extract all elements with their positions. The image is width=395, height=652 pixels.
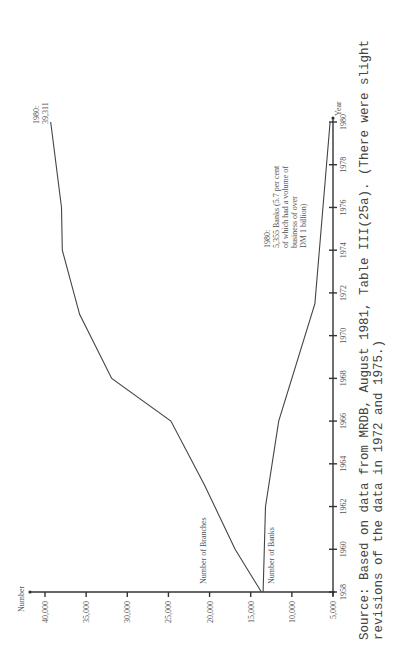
- banks-series-label: Number of Banks: [267, 527, 276, 584]
- source-note: Source: Based on data from MRDB, August …: [358, 40, 386, 640]
- svg-text:1976: 1976: [339, 199, 348, 215]
- branches-series-line: [51, 122, 262, 592]
- svg-text:35,000: 35,000: [82, 601, 91, 623]
- svg-text:1970: 1970: [339, 328, 348, 344]
- svg-text:5,000: 5,000: [329, 601, 338, 619]
- svg-text:1966: 1966: [339, 413, 348, 429]
- branches-annotation: 1980: 39,311: [32, 102, 50, 124]
- svg-text:20,000: 20,000: [206, 601, 215, 623]
- svg-text:1968: 1968: [339, 370, 348, 386]
- chart: 5,00010,00015,00020,00025,00030,00035,00…: [0, 0, 395, 652]
- svg-text:39,311: 39,311: [41, 102, 50, 124]
- banks-annotation: 1980: 5,355 Banks (5.7 per cent of which…: [263, 165, 308, 248]
- svg-text:1980:: 1980:: [263, 230, 272, 248]
- svg-text:25,000: 25,000: [164, 601, 173, 623]
- svg-text:15,000: 15,000: [247, 601, 256, 623]
- svg-text:1972: 1972: [339, 285, 348, 301]
- svg-text:revisions of the data in 1972: revisions of the data in 1972 and 1975.): [372, 340, 386, 640]
- svg-text:30,000: 30,000: [123, 601, 132, 623]
- year-axis-label: Year: [334, 101, 343, 116]
- svg-text:Source: Based on data from MR: Source: Based on data from MRDB, August …: [358, 40, 372, 640]
- branches-series-label: Number of Branches: [199, 517, 208, 584]
- svg-text:1974: 1974: [339, 242, 348, 258]
- svg-text:1962: 1962: [339, 499, 348, 515]
- value-axis-ticks: 5,00010,00015,00020,00025,00030,00035,00…: [41, 592, 338, 623]
- year-axis-ticks: 1958196019621964196619681970197219741976…: [329, 114, 348, 600]
- svg-text:1958: 1958: [339, 584, 348, 600]
- svg-text:1980:: 1980:: [32, 106, 41, 124]
- svg-text:40,000: 40,000: [41, 601, 50, 623]
- svg-text:1964: 1964: [339, 456, 348, 472]
- value-axis-label: Number: [17, 585, 26, 612]
- svg-text:1978: 1978: [339, 157, 348, 173]
- svg-text:1960: 1960: [339, 541, 348, 557]
- svg-text:DM 1 billion): DM 1 billion): [299, 203, 308, 248]
- svg-text:5,355 Banks (5.7 per cent: 5,355 Banks (5.7 per cent: [272, 165, 281, 248]
- svg-text:10,000: 10,000: [288, 601, 297, 623]
- svg-text:business of over: business of over: [290, 196, 299, 248]
- svg-text:of which had a volume of: of which had a volume of: [281, 166, 290, 248]
